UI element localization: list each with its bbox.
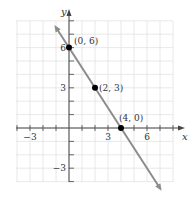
data-points: (0, 6)(2, 3)(4, 0) bbox=[66, 36, 143, 131]
x-tick-label: −3 bbox=[23, 132, 37, 142]
x-axis-arrow-icon bbox=[178, 126, 185, 131]
data-point bbox=[118, 125, 124, 131]
axes: xy bbox=[16, 6, 188, 182]
coordinate-plot: xy −33663−3 (0, 6)(2, 3)(4, 0) bbox=[0, 0, 194, 197]
y-axis-label: y bbox=[60, 6, 67, 17]
data-point-label: (2, 3) bbox=[99, 83, 123, 93]
y-tick-label: 6 bbox=[60, 43, 66, 53]
data-point-label: (4, 0) bbox=[119, 113, 143, 123]
data-point-label: (0, 6) bbox=[74, 36, 98, 46]
x-axis-label: x bbox=[182, 131, 188, 142]
y-tick-label: 3 bbox=[60, 83, 66, 93]
data-point bbox=[66, 45, 72, 51]
x-tick-label: 3 bbox=[105, 132, 111, 142]
y-axis-arrow-icon bbox=[67, 9, 72, 16]
x-tick-label: 6 bbox=[144, 132, 150, 142]
y-tick-label: −3 bbox=[53, 163, 67, 173]
data-point bbox=[92, 85, 98, 91]
